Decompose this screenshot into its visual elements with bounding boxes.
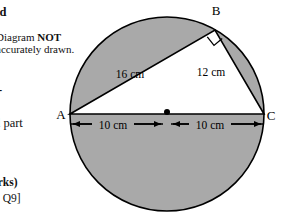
question-page: ed Diagram NOT accurately drawn. - d par…	[0, 0, 281, 222]
dimension-label-center-to-c: 10 cm	[196, 119, 224, 131]
vertex-label-c: C	[267, 108, 276, 123]
dimension-label-a-to-center: 10 cm	[99, 119, 127, 131]
vertex-label-b: B	[212, 3, 221, 18]
center-dot-icon	[164, 109, 170, 115]
side-label-bc: 12 cm	[197, 66, 225, 78]
vertex-label-a: A	[56, 107, 66, 122]
side-label-ab: 16 cm	[116, 68, 144, 80]
circle-diagram: A B C 16 cm 12 cm 10 cm 10 cm	[0, 0, 281, 222]
